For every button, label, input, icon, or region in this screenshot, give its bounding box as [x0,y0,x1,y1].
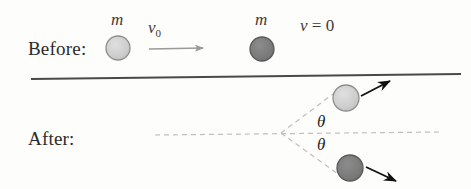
target-velocity-label: v = 0 [300,16,334,36]
lower-trajectory-dashed-line [281,133,345,179]
angle-label-lower: θ [317,135,325,155]
angle-label-upper: θ [317,112,325,132]
v0-arrow [149,48,203,49]
after-upper-ball [333,85,359,111]
lower-velocity-arrow [366,167,396,181]
collision-diagram: Before: After: m m v0 v = 0 θ θ [0,0,471,189]
diagram-canvas [0,0,471,189]
after-stage-label: After: [28,128,75,150]
horizontal-surface-line [31,74,461,79]
after-axis-dashed-line [155,132,440,135]
velocity-value-target: = 0 [312,16,334,35]
upper-trajectory-dashed-line [281,88,341,133]
velocity-subscript: 0 [156,27,162,39]
upper-velocity-arrow [361,81,390,96]
after-lower-ball [337,155,363,181]
before-stage-label: Before: [28,38,86,60]
before-target-ball [250,37,274,61]
mass-label-target: m [255,10,267,30]
velocity-symbol-target: v [300,16,308,35]
before-incoming-ball [106,36,130,60]
initial-velocity-label: v0 [148,18,161,39]
mass-label-incoming: m [111,10,123,30]
velocity-symbol: v [148,18,156,37]
